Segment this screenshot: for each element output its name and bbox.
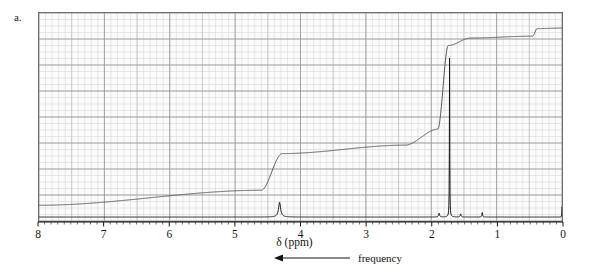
integral-trace [39, 28, 562, 205]
panel-label: a. [14, 12, 22, 23]
frequency-annotation: frequency [274, 252, 402, 264]
frequency-label: frequency [358, 252, 402, 264]
nmr-spectrum-figure: a. 876543210 δ (ppm) frequency [0, 0, 589, 276]
left-arrow-icon [274, 253, 352, 263]
spectrum-plot-area [38, 12, 563, 222]
spectrum-trace [39, 58, 562, 217]
spectrum-trace-layer [39, 13, 562, 221]
x-axis-title: δ (ppm) [0, 236, 589, 248]
